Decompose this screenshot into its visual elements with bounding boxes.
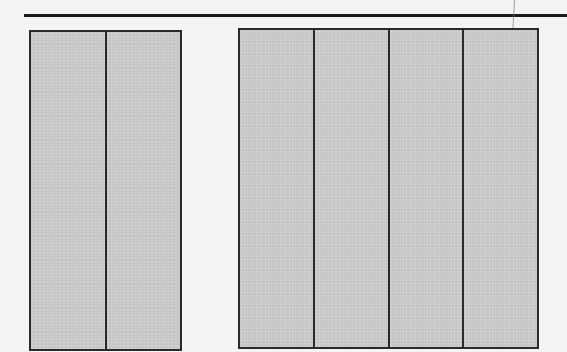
left-panel-group [29, 30, 182, 351]
left-panel-1 [31, 32, 105, 349]
top-horizontal-rule [24, 14, 567, 17]
right-panel-2 [313, 30, 388, 347]
right-panel-group [238, 28, 539, 349]
right-panel-4 [462, 30, 537, 347]
right-panel-1 [240, 30, 313, 347]
right-panel-3 [388, 30, 463, 347]
left-panel-2 [105, 32, 181, 349]
